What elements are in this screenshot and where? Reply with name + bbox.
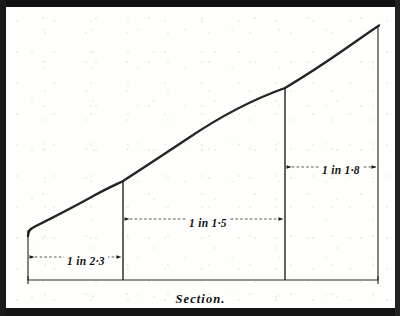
frame-border-top [0, 0, 400, 7]
gradient-label-1: 1 in 2·3 [64, 256, 108, 268]
ground-profile-curve-ghost [29, 25, 380, 235]
frame-border-bottom [0, 308, 400, 316]
ground-profile-curve [28, 26, 379, 237]
drawing-plate: 1 in 2·3 1 in 1·5 1 in 1·8 Section. [6, 7, 395, 308]
figure-caption: Section. [6, 292, 395, 307]
scanned-figure-frame: 1 in 2·3 1 in 1·5 1 in 1·8 Section. [0, 0, 400, 316]
frame-border-right [395, 0, 400, 316]
gradient-label-3: 1 in 1·8 [319, 165, 363, 177]
gradient-label-2: 1 in 1·5 [186, 218, 230, 230]
